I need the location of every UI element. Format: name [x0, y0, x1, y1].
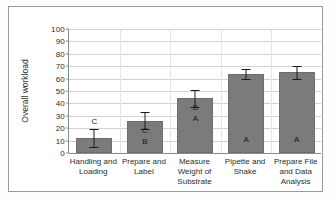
group-letter: B	[193, 104, 198, 112]
category-label-line: Measure	[169, 157, 220, 167]
figure: Overall workload 0102030405060708090100C…	[0, 0, 334, 201]
bar-group: A	[271, 29, 322, 153]
category-label-line: Analysis	[270, 177, 321, 187]
error-bar-cap-upper	[191, 90, 200, 91]
error-bar	[296, 66, 297, 78]
category-label-line: Pipette and	[220, 157, 271, 167]
y-tick-label-0: 0	[60, 149, 65, 158]
category-label-line: Label	[119, 167, 170, 177]
x-axis-category-label: Handling andLoading	[68, 157, 119, 177]
error-bar-cap-upper	[90, 129, 99, 130]
category-label-line: Shake	[220, 167, 271, 177]
error-bar-cap-upper	[242, 69, 251, 70]
plot-area: 0102030405060708090100CCBBAAA	[68, 29, 321, 153]
bar-group: CB	[120, 29, 171, 153]
category-label-line: Prepare and	[119, 157, 170, 167]
error-bar-cap-lower	[90, 147, 99, 148]
category-label-line: Weight of	[169, 167, 220, 177]
x-axis-category-label: Prepare andLabel	[119, 157, 170, 177]
y-tick-label-100: 100	[51, 25, 65, 34]
category-label-line: Prepare File	[270, 157, 321, 167]
group-letter: A	[294, 136, 299, 144]
y-tick-label-10: 10	[56, 136, 65, 145]
y-tick-label-50: 50	[56, 87, 65, 96]
y-tick-label-40: 40	[56, 99, 65, 108]
group-letter: C	[91, 118, 97, 126]
y-tick-label-30: 30	[56, 111, 65, 120]
x-axis-category-label: MeasureWeight ofSubstrate	[169, 157, 220, 187]
bar-group: A	[221, 29, 272, 153]
error-bar-cap-upper	[140, 112, 149, 113]
y-tick-label-90: 90	[56, 37, 65, 46]
error-bar-cap-lower	[292, 79, 301, 80]
group-letter: B	[142, 138, 147, 146]
bar-group: BA	[170, 29, 221, 153]
bar-group: C	[69, 29, 120, 153]
x-axis-category-label: Pipette andShake	[220, 157, 271, 177]
category-label-line: Loading	[68, 167, 119, 177]
y-tick-label-80: 80	[56, 49, 65, 58]
category-label-line: Handling and	[68, 157, 119, 167]
x-axis-category-label: Prepare Fileand DataAnalysis	[270, 157, 321, 187]
y-tick-label-70: 70	[56, 62, 65, 71]
error-bar-cap-lower	[242, 79, 251, 80]
y-tick-label-20: 20	[56, 124, 65, 133]
group-letter: A	[193, 115, 198, 123]
chart-frame: Overall workload 0102030405060708090100C…	[8, 6, 323, 192]
y-tick-label-60: 60	[56, 74, 65, 83]
category-label-line: and Data	[270, 167, 321, 177]
gridline-0	[69, 153, 321, 154]
group-letter: A	[243, 136, 248, 144]
group-letter: C	[142, 127, 148, 135]
error-bar	[94, 129, 95, 146]
error-bar	[246, 69, 247, 79]
error-bar-cap-upper	[292, 66, 301, 67]
y-axis-label: Overall workload	[20, 59, 30, 122]
category-label-line: Substrate	[169, 177, 220, 187]
